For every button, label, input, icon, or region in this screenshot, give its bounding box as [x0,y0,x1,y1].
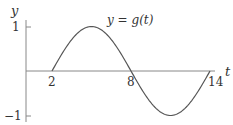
t-tick-label-8: 8 [127,75,135,89]
y-tick-label-1: 1 [12,20,20,34]
t-tick-label-2: 2 [48,75,56,89]
t-tick-label-14: 14 [208,75,224,89]
t-axis-label: t [225,64,231,79]
y-axis-label: y [10,3,19,18]
curve-annotation: y = g(t) [106,13,154,27]
chart: y t 1 −1 2 8 14 y = g(t) [0,0,233,125]
y-tick-label-neg1: −1 [4,109,22,123]
